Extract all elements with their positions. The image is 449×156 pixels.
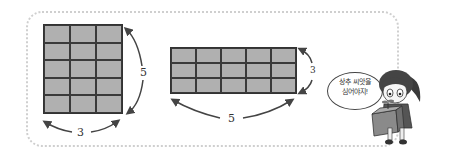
arc-arrow-icon: [45, 122, 72, 132]
arc-arrow-icon: [173, 100, 220, 118]
left-width-label: 3: [77, 126, 84, 139]
arc-arrow-icon: [300, 80, 312, 93]
girl-character-icon: [368, 66, 428, 148]
left-height-label: 5: [140, 66, 147, 79]
arc-arrow-icon: [126, 29, 142, 66]
arc-arrow-icon: [91, 121, 118, 132]
right-height-label: 3: [310, 65, 316, 75]
arc-arrow-icon: [243, 100, 292, 118]
arc-arrow-icon: [128, 80, 143, 113]
arc-arrow-icon: [300, 49, 312, 63]
right-width-label: 5: [228, 112, 235, 125]
